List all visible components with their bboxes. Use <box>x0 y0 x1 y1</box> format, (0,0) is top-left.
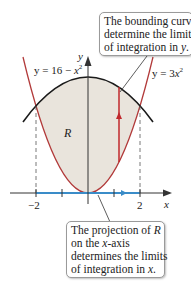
top-callout-leader <box>120 56 147 92</box>
y-axis-arrow-icon <box>85 56 92 66</box>
lower-curve-label: y = 3x2 <box>152 66 183 79</box>
upper-curve-label-prefix: y = 16 − <box>34 64 74 76</box>
callout-bottom-line-2: on the x-axis <box>71 237 160 250</box>
callout-bottom-line-1-text: The projection of <box>71 224 154 236</box>
callout-top-line-3: of integration in y. <box>104 41 188 54</box>
callout-bottom-line-1-var: R <box>154 224 161 236</box>
callout-bottom-line-4-end: . <box>153 263 156 275</box>
x-axis-label: x <box>164 198 169 210</box>
lower-curve-label-prefix: y = 3 <box>152 67 175 79</box>
x-tick-label-neg2: −2 <box>28 199 40 211</box>
callout-bottom-line-1: The projection of R <box>71 224 160 237</box>
projection-arrow-icon <box>121 190 127 196</box>
callout-bottom-line-4-prefix: of integration in <box>71 263 148 275</box>
callout-top-line-3-text: of integration in <box>104 41 181 53</box>
upper-curve-label-exp: 2 <box>79 63 83 71</box>
callout-bottom-line-3: determines the limits <box>71 250 160 263</box>
x-tick-label-2: 2 <box>137 199 143 211</box>
region-label: R <box>64 126 71 141</box>
lower-curve-label-exp: 2 <box>180 66 184 74</box>
callout-bounding-curves: The bounding curves determine the limits… <box>99 12 191 56</box>
callout-top-line-1: The bounding curves <box>104 15 188 28</box>
callout-bottom-line-2-prefix: on the <box>71 237 102 249</box>
callout-projection: The projection of R on the x-axis determ… <box>66 221 165 278</box>
x-axis-arrow-icon <box>163 190 172 197</box>
callout-bottom-line-2-suffix: -axis <box>107 237 129 249</box>
callout-top-end: . <box>186 41 189 53</box>
y-axis-label: y <box>78 50 83 62</box>
bottom-callout-leader <box>98 195 110 222</box>
upper-curve-label: y = 16 − x2 <box>34 63 82 76</box>
callout-top-line-2: determine the limits <box>104 28 188 41</box>
callout-bottom-line-4: of integration in x. <box>71 263 160 276</box>
